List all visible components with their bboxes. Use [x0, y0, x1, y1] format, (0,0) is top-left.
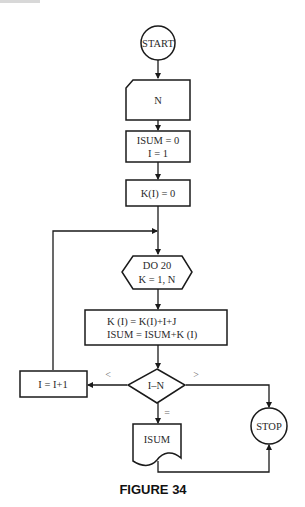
- decision-label: I–N: [148, 380, 165, 391]
- init-k-process: K(I) = 0: [126, 180, 190, 206]
- compute-line-1: K (I) = K(I)+I+J: [107, 316, 176, 328]
- increment-process: I = I+1: [20, 371, 87, 397]
- do-loop-line-2: K = 1, N: [139, 274, 176, 285]
- arrow-loop-back: [53, 231, 157, 370]
- flowchart: START N ISUM = 0 I = 1 K(I) = 0 DO 20 K …: [0, 0, 305, 507]
- compute-line-2: ISUM = ISUM+K (I): [107, 329, 198, 341]
- init-k-label: K(I) = 0: [141, 188, 176, 200]
- branch-greater-label: >: [193, 369, 199, 380]
- decision-diamond: I–N: [128, 369, 185, 403]
- branch-equal-label: =: [164, 407, 170, 418]
- branch-less-label: <: [105, 369, 111, 380]
- input-n-card: N: [126, 80, 190, 120]
- output-label: ISUM: [144, 434, 171, 445]
- do-loop-line-1: DO 20: [143, 260, 171, 271]
- do-loop-preparation: DO 20 K = 1, N: [122, 256, 192, 289]
- init-line-2: I = 1: [148, 148, 168, 159]
- start-terminal: START: [141, 26, 175, 60]
- input-n-label: N: [154, 95, 162, 106]
- stop-label: STOP: [256, 421, 282, 432]
- init-process: ISUM = 0 I = 1: [126, 131, 190, 162]
- arrow-decision-greater: [186, 385, 269, 407]
- init-line-1: ISUM = 0: [137, 135, 180, 146]
- increment-label: I = I+1: [38, 379, 67, 390]
- stop-terminal: STOP: [251, 408, 287, 444]
- figure-caption: FIGURE 34: [119, 482, 187, 497]
- start-label: START: [142, 38, 174, 49]
- output-document: ISUM: [133, 424, 181, 465]
- compute-process: K (I) = K(I)+I+J ISUM = ISUM+K (I): [85, 310, 227, 345]
